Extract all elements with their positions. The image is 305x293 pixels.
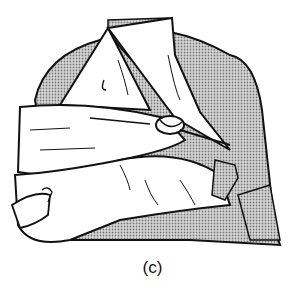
figure-caption: (c) <box>0 258 305 278</box>
sling-illustration <box>0 0 305 293</box>
